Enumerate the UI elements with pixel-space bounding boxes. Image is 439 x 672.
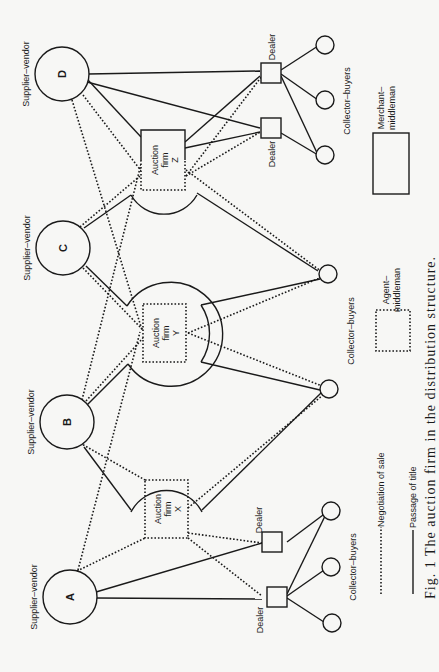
legend-merchant-label-2: middleman xyxy=(387,86,397,130)
firm-label: firm xyxy=(163,502,173,517)
collector-label: Collector–buyers xyxy=(348,533,358,601)
svg-text:Dealer: Dealer xyxy=(267,141,277,168)
legend-merchant-label-1: Merchant– xyxy=(376,87,386,130)
negotiation-of-sale-lines xyxy=(72,76,323,596)
auction-label: Auction xyxy=(153,494,163,524)
svg-text:Dealer: Dealer xyxy=(254,507,264,534)
svg-text:Dealer: Dealer xyxy=(267,34,277,61)
supplier-label: Supplier–vendor xyxy=(26,389,36,455)
auction-firm-x: Auction firm X xyxy=(131,480,202,538)
dealer-top-1: Dealer xyxy=(261,34,281,83)
collector-label: Collector–buyers xyxy=(346,297,356,365)
legend-negotiation-label: Negotiation of sale xyxy=(376,452,386,527)
figure-caption: Fig. 1 The auction firm in the distribut… xyxy=(423,256,438,599)
collectors-middle: Collector–buyers xyxy=(319,265,356,398)
auction-label: Auction xyxy=(151,318,161,348)
svg-text:D: D xyxy=(56,70,68,78)
distribution-diagram: Auction firm X Auction firm Y Auction fi… xyxy=(0,0,439,672)
supplier-label: Supplier–vendor xyxy=(22,215,32,281)
auction-firm-y: Auction firm Y xyxy=(127,282,223,386)
svg-text:B: B xyxy=(61,418,73,426)
firm-id: Y xyxy=(171,330,181,336)
svg-text:A: A xyxy=(64,593,76,601)
supplier-label: Supplier–vendor xyxy=(21,41,31,107)
svg-text:Dealer: Dealer xyxy=(255,607,265,634)
firm-label: firm xyxy=(160,153,170,168)
dealer-top-2: Dealer xyxy=(261,118,281,167)
collector-label: Collector–buyers xyxy=(342,67,352,135)
supplier-a: A Supplier–vendor xyxy=(29,564,97,630)
legend-agent-label-1: Agent– xyxy=(381,276,391,305)
firm-id: Z xyxy=(170,157,180,163)
legend-passage-label: Passage of title xyxy=(408,466,418,528)
supplier-c: C Supplier–vendor xyxy=(22,215,90,281)
auction-label: Auction xyxy=(150,145,160,175)
firm-id: X xyxy=(173,506,183,512)
legend-agent-label-2: middleman xyxy=(392,268,402,312)
supplier-d: D Supplier–vendor xyxy=(21,41,89,107)
auction-firm-z: Auction firm Z xyxy=(131,130,197,214)
dealer-bottom-1: Dealer xyxy=(254,507,282,552)
passage-of-title-lines xyxy=(84,46,327,624)
firm-label: firm xyxy=(161,326,171,341)
collectors-bottom: Collector–buyers xyxy=(322,502,358,632)
supplier-label: Supplier–vendor xyxy=(29,564,39,630)
svg-text:C: C xyxy=(57,244,69,252)
collectors-top: Collector–buyers xyxy=(316,36,352,164)
legend: Negotiation of sale Passage of title Age… xyxy=(373,86,418,594)
